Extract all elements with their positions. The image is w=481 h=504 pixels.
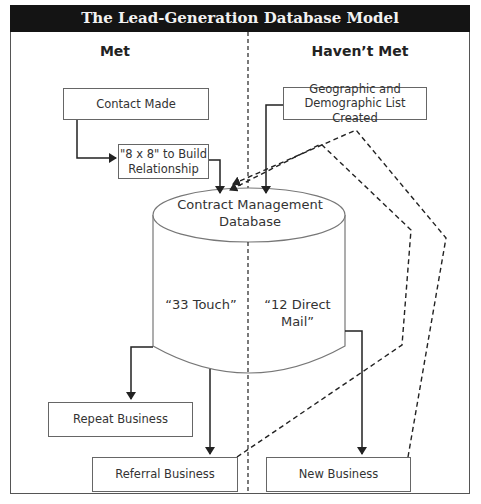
database-label-line1: Contract Management [165,197,335,214]
database-label-line2: Database [165,214,335,231]
touch33-label: “33 Touch” [160,297,242,314]
arrow-contact-to-8x8 [77,119,116,158]
arrow-database-to-repeat [131,347,153,399]
direct-mail-line2: Mail” [255,314,340,331]
arrow-database-to-new [345,331,362,454]
node-label: New Business [299,467,378,481]
direct-mail-label: “12 Direct Mail” [255,297,340,331]
arrow-geo-to-database [266,105,283,193]
database-label: Contract Management Database [165,197,335,231]
node-label: Repeat Business [73,412,168,426]
node-8x8-relationship: "8 x 8" to Build Relationship [118,144,209,179]
node-contact-made: Contact Made [63,88,209,120]
node-label-line2: Relationship [128,162,199,176]
node-label-line1: Geographic and [309,82,401,96]
node-label-line1: "8 x 8" to Build [120,147,207,161]
node-repeat-business: Repeat Business [48,402,193,437]
direct-mail-line1: “12 Direct [255,297,340,314]
node-geo-demographic-list: Geographic and Demographic List Created [283,87,427,120]
node-label-line2: Demographic List Created [284,96,426,125]
node-label: Referral Business [115,467,215,481]
arrow-8x8-to-database [208,160,220,193]
node-referral-business: Referral Business [92,457,238,492]
node-new-business: New Business [266,457,411,492]
node-label: Contact Made [96,97,176,111]
